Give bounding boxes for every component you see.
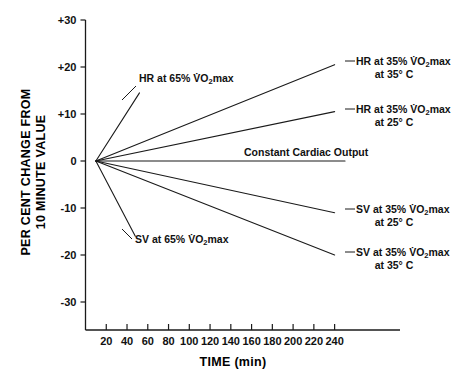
x-tick-label: 140 xyxy=(222,335,240,347)
series-label: Constant Cardiac Output xyxy=(244,146,369,158)
chart-canvas: +30+20+100-10-20-30204060801001201401601… xyxy=(0,0,453,372)
x-tick-label: 80 xyxy=(162,335,174,347)
series-line xyxy=(96,93,140,161)
data-series-lines xyxy=(96,65,345,255)
y-axis-title-line2: 10 MINUTE VALUE xyxy=(34,115,48,230)
y-tick-label: -30 xyxy=(61,296,77,308)
x-tick-label: 160 xyxy=(242,335,260,347)
chart-figure: +30+20+100-10-20-30204060801001201401601… xyxy=(0,0,453,372)
y-tick-label: +10 xyxy=(58,108,77,120)
x-tick-label: 240 xyxy=(325,335,343,347)
series-line xyxy=(96,161,135,236)
x-tick-label: 220 xyxy=(305,335,323,347)
series-label-line2: at 35° C xyxy=(375,259,414,271)
x-tick-label: 200 xyxy=(284,335,302,347)
y-tick-label: -10 xyxy=(61,202,77,214)
axis-ticks xyxy=(81,20,335,330)
series-label-line2: at 25° C xyxy=(375,216,414,228)
y-tick-label: +20 xyxy=(58,61,77,73)
series-label: SV at 65% V̇O2max xyxy=(135,233,229,247)
x-axis-title: TIME (min) xyxy=(200,355,267,369)
series-line xyxy=(96,161,335,213)
annotation-leader xyxy=(122,86,136,100)
annotation-leader xyxy=(122,229,132,239)
y-tick-label: 0 xyxy=(70,155,76,167)
x-tick-label: 40 xyxy=(121,335,133,347)
y-tick-label: +30 xyxy=(58,14,77,26)
x-tick-label: 100 xyxy=(180,335,198,347)
y-tick-label: -20 xyxy=(61,249,77,261)
x-tick-label: 60 xyxy=(142,335,154,347)
x-tick-label: 180 xyxy=(263,335,281,347)
axis-titles: TIME (min)PER CENT CHANGE FROM10 MINUTE … xyxy=(19,88,266,369)
x-tick-label: 20 xyxy=(100,335,112,347)
series-label: HR at 65% V̇O2max xyxy=(139,72,234,86)
x-tick-label: 120 xyxy=(201,335,219,347)
series-label-line2: at 35° C xyxy=(375,68,414,80)
y-axis-title-line1: PER CENT CHANGE FROM xyxy=(19,88,33,255)
series-label-line2: at 25° C xyxy=(375,116,414,128)
axis-tick-labels: +30+20+100-10-20-30204060801001201401601… xyxy=(58,14,344,347)
